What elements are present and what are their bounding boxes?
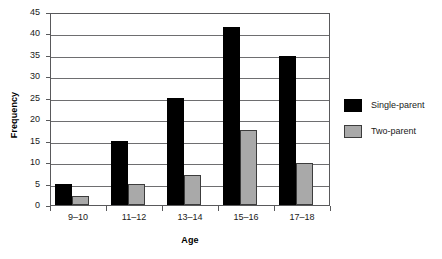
bar-chart: Frequency 051015202530354045 9–1011–1213… — [0, 0, 442, 259]
x-axis-category-label: 17–18 — [267, 212, 337, 222]
x-axis-title: Age — [50, 235, 330, 245]
x-axis-tick-mark — [50, 206, 51, 211]
legend-label-single-parent: Single-parent — [371, 100, 425, 110]
chart-legend: Single-parent Two-parent — [344, 98, 440, 150]
x-axis-tick-mark — [330, 206, 331, 211]
x-axis-tick-mark — [274, 206, 275, 211]
legend-swatch-icon-single-parent — [344, 99, 362, 112]
x-axis-tick-mark — [162, 206, 163, 211]
legend-item-two-parent: Two-parent — [344, 124, 440, 138]
legend-label-two-parent: Two-parent — [371, 126, 416, 136]
x-axis-tick-mark — [106, 206, 107, 211]
x-axis-tick-mark — [218, 206, 219, 211]
legend-swatch-icon-two-parent — [344, 125, 362, 138]
legend-item-single-parent: Single-parent — [344, 98, 440, 112]
